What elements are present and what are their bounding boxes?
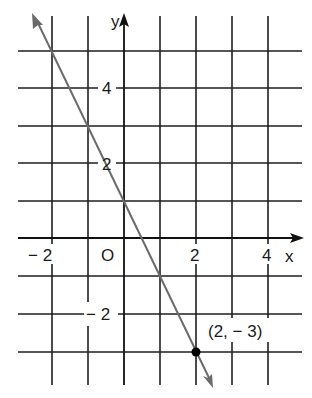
origin-label: O (101, 246, 114, 265)
x-tick-label-neg2: − 2 (28, 246, 52, 265)
coordinate-plane: y x O − 2 2 4 4 2 − 2 (2, − 3) (0, 0, 312, 398)
line-arrow-top-icon (32, 13, 43, 29)
x-tick-label-4: 4 (262, 246, 271, 265)
y-tick-label-2: 2 (102, 155, 111, 174)
point-label: (2, − 3) (208, 322, 262, 341)
y-tick-label-4: 4 (102, 79, 111, 98)
x-tick-label-2: 2 (190, 246, 199, 265)
x-axis-label: x (285, 247, 294, 266)
y-axis-label: y (111, 12, 120, 31)
y-tick-label-neg2: − 2 (86, 305, 110, 324)
point-marker (192, 348, 201, 357)
